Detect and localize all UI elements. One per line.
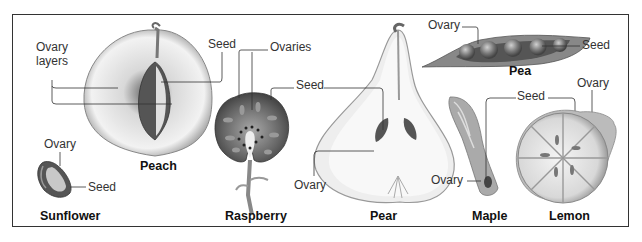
lemon-ovary-label: Ovary xyxy=(577,77,609,90)
maple-ovary-label: Ovary xyxy=(431,174,463,187)
pea-ovary-label: Ovary xyxy=(428,19,460,32)
maple-lemon-seed-label: Seed xyxy=(517,90,545,103)
sunflower-name: Sunflower xyxy=(40,209,100,223)
peach-name: Peach xyxy=(140,159,177,173)
raspberry-illustration xyxy=(215,93,289,215)
sunflower-ovary-label: Ovary xyxy=(44,138,76,151)
pear-name: Pear xyxy=(370,209,397,223)
peach-seed-label: Seed xyxy=(208,38,236,51)
sunflower-seed-label: Seed xyxy=(88,181,116,194)
raspberry-seed-label: Seed xyxy=(296,79,324,92)
pea-name: Pea xyxy=(509,64,531,78)
raspberry-ovaries-label: Ovaries xyxy=(270,41,311,54)
pear-ovary-label: Ovary xyxy=(294,179,326,192)
sunflower-illustration xyxy=(38,162,71,198)
pea-illustration xyxy=(422,35,590,67)
lemon-illustration xyxy=(516,110,616,203)
fruit-illustrations xyxy=(0,0,642,242)
peach-ovary-layers-label-line2: layers xyxy=(36,55,68,68)
maple-name: Maple xyxy=(472,209,507,223)
peach-ovary-layers-label-line1: Ovary xyxy=(36,41,68,54)
pea-seed-label: Seed xyxy=(582,39,610,52)
raspberry-name: Raspberry xyxy=(225,209,287,223)
peach-illustration xyxy=(84,23,212,156)
lemon-name: Lemon xyxy=(549,209,590,223)
